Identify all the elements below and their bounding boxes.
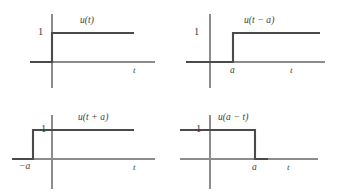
amplitude-label: 1 <box>194 27 199 38</box>
tick-label-a: a <box>252 163 257 173</box>
plot-panel-u-t-minus-a: 1 u(t − a) a t <box>168 0 336 96</box>
tick-label-minus-a: −a <box>19 162 30 172</box>
plot-panel-u-a-minus-t: 1 u(a − t) a t <box>168 97 336 193</box>
tick-label-a: a <box>230 66 235 76</box>
function-label: u(t + a) <box>78 113 108 123</box>
step-function-figure: 1 u(t) t 1 u(t − a) a t 1 u(t + a) −a t <box>0 0 337 193</box>
x-axis-label: t <box>133 66 136 75</box>
plot-canvas <box>168 97 336 193</box>
function-label: u(t) <box>80 16 94 26</box>
amplitude-label: 1 <box>196 124 201 135</box>
step-curve <box>186 33 320 62</box>
function-label: u(t − a) <box>244 16 274 26</box>
amplitude-label: 1 <box>41 124 46 135</box>
x-axis-label: t <box>133 163 136 172</box>
x-axis-label: t <box>290 66 293 75</box>
plot-panel-u-t-plus-a: 1 u(t + a) −a t <box>0 97 168 193</box>
amplitude-label: 1 <box>38 27 43 38</box>
step-curve <box>12 130 134 159</box>
x-axis-label: t <box>287 163 290 172</box>
function-label: u(a − t) <box>218 113 248 123</box>
step-curve <box>30 33 134 62</box>
step-curve <box>180 130 268 159</box>
plot-panel-u-t: 1 u(t) t <box>0 0 168 96</box>
